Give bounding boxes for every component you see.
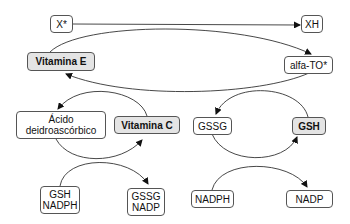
node-x-radical: X* [50,15,73,33]
node-gsh-top: GSH [292,117,326,135]
edge-gshnadph-to-gssgnadp [60,162,148,186]
edge-gsh-to-gssg [216,91,308,117]
node-dehydroascorbic-acid: Ácido deidroascórbico [16,111,106,139]
node-vitamin-c: Vitamina C [114,116,180,134]
node-vitamin-e: Vitamina E [27,52,95,71]
edge-x-to-xh [72,24,300,25]
node-nadp: NADP [286,190,333,208]
edge-vite-to-alfato [50,29,311,54]
node-gssg-top: GSSG [193,117,232,135]
edge-alfato-to-vite [66,73,309,92]
node-xh: XH [301,15,323,33]
node-gsh-nadph: GSH NADPH [40,186,80,214]
node-gssg-nadp: GSSG NADP [127,188,165,216]
edge-gssg-to-gsh [212,134,297,158]
node-alfa-to: alfa-TO* [284,56,333,74]
node-nadph: NADPH [191,190,234,208]
edge-dha-to-vitc [56,139,142,159]
edge-nadph-to-nadp [212,166,307,190]
